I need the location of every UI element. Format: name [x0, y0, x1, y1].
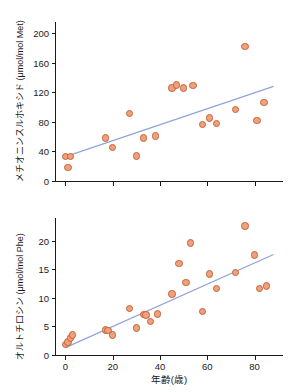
- y-tick-top: [52, 151, 57, 152]
- x-tick-bottom: [255, 355, 256, 360]
- y-axis-title-top: メチオニンスルホキシド (μmol/mol Met): [13, 20, 26, 182]
- y-tick-label-bottom: 10: [38, 292, 49, 303]
- data-point: [126, 110, 133, 117]
- x-tick-top: [207, 181, 208, 186]
- data-point: [199, 121, 206, 128]
- data-point: [69, 331, 76, 338]
- data-point: [199, 308, 206, 315]
- plot-inner-top: [56, 22, 283, 181]
- x-axis-title: 年齢(歳): [151, 372, 187, 386]
- x-tick-top: [113, 181, 114, 186]
- data-point: [147, 318, 154, 325]
- y-tick-label-bottom: 5: [44, 321, 49, 332]
- y-tick-top: [52, 33, 57, 34]
- y-tick-bottom: [52, 326, 57, 327]
- plot-inner-bottom: [56, 218, 283, 355]
- y-tick-label-top: 120: [33, 87, 49, 98]
- data-point: [251, 251, 258, 258]
- y-tick-top: [52, 122, 57, 123]
- data-point: [168, 290, 175, 297]
- y-tick-label-top: 160: [33, 57, 49, 68]
- x-tick-label-bottom: 20: [107, 361, 118, 372]
- data-point: [206, 270, 213, 277]
- y-tick-bottom: [52, 298, 57, 299]
- data-point: [154, 310, 161, 317]
- data-point: [133, 152, 140, 159]
- y-tick-label-top: 200: [33, 28, 49, 39]
- x-tick-top: [65, 181, 66, 186]
- x-tick-label-bottom: 40: [155, 361, 166, 372]
- y-tick-label-top: 80: [38, 116, 49, 127]
- y-tick-top: [52, 181, 57, 182]
- data-point: [180, 84, 187, 91]
- y-tick-label-bottom: 0: [44, 350, 49, 361]
- data-point: [133, 324, 140, 331]
- x-tick-bottom: [65, 355, 66, 360]
- x-tick-label-bottom: 0: [63, 361, 68, 372]
- y-tick-bottom: [52, 355, 57, 356]
- y-tick-top: [52, 63, 57, 64]
- data-point: [182, 279, 189, 286]
- y-axis-title-bottom: オルトチロシン (μmol/mol Phe): [13, 233, 26, 360]
- data-point: [152, 132, 159, 139]
- x-tick-top: [255, 181, 256, 186]
- regression-line-bottom: [56, 218, 283, 355]
- figure-container: メチオニンスルホキシド (μmol/mol Met) 0408012016020…: [0, 0, 293, 392]
- x-tick-label-bottom: 80: [249, 361, 260, 372]
- data-point: [175, 260, 182, 267]
- data-point: [263, 282, 270, 289]
- data-point: [140, 134, 147, 141]
- y-tick-top: [52, 92, 57, 93]
- data-point: [187, 239, 194, 246]
- regression-line-top: [56, 22, 283, 181]
- data-point: [206, 114, 213, 121]
- y-tick-label-bottom: 15: [38, 264, 49, 275]
- y-tick-bottom: [52, 241, 57, 242]
- data-point: [67, 153, 74, 160]
- plot-area-bottom: 05101520020406080: [55, 218, 283, 356]
- panel-methionine-sulfoxide: メチオニンスルホキシド (μmol/mol Met) 0408012016020…: [0, 0, 293, 196]
- data-point: [260, 99, 267, 106]
- y-tick-label-bottom: 20: [38, 235, 49, 246]
- x-tick-bottom: [207, 355, 208, 360]
- data-point: [189, 82, 196, 89]
- data-point: [102, 134, 109, 141]
- data-point: [109, 331, 116, 338]
- data-point: [109, 144, 116, 151]
- x-tick-top: [160, 181, 161, 186]
- plot-area-top: 04080120160200: [55, 22, 283, 182]
- y-tick-bottom: [52, 269, 57, 270]
- y-tick-label-top: 40: [38, 146, 49, 157]
- data-point: [232, 269, 239, 276]
- data-point: [64, 164, 71, 171]
- data-point: [232, 106, 239, 113]
- data-point: [213, 285, 220, 292]
- data-point: [126, 305, 133, 312]
- x-tick-label-bottom: 60: [202, 361, 213, 372]
- data-point: [253, 117, 260, 124]
- data-point: [241, 222, 248, 229]
- x-tick-bottom: [113, 355, 114, 360]
- y-tick-label-top: 0: [44, 176, 49, 187]
- data-point: [213, 120, 220, 127]
- panel-ortho-tyrosine: オルトチロシン (μmol/mol Phe) 年齢(歳) 05101520020…: [0, 196, 293, 392]
- data-point: [256, 285, 263, 292]
- x-tick-bottom: [160, 355, 161, 360]
- data-point: [241, 43, 248, 50]
